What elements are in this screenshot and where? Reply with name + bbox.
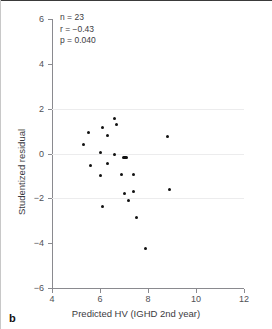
x-tick-label: 6 [88, 295, 112, 304]
data-point [144, 247, 147, 250]
data-point [132, 190, 135, 193]
data-point [99, 174, 102, 177]
x-tick-label: 10 [184, 295, 208, 304]
data-point [132, 173, 135, 176]
figure-left-border [0, 0, 1, 329]
x-tick-label: 8 [136, 295, 160, 304]
data-point [101, 205, 104, 208]
y-tick-label: 2 [22, 105, 44, 114]
data-point [106, 162, 109, 165]
data-point [101, 126, 104, 129]
data-point [120, 173, 123, 176]
statistics-annotation: n = 23 r = −0.43 p = 0.040 [60, 12, 96, 47]
data-point [168, 188, 171, 191]
data-point [166, 135, 169, 138]
plot-area [52, 19, 244, 288]
panel-label: b [9, 312, 16, 324]
gridline-y [52, 198, 244, 199]
data-point [82, 143, 85, 146]
x-tick-label: 4 [40, 295, 64, 304]
y-tick-label: 4 [22, 60, 44, 69]
x-tick [148, 289, 149, 293]
data-point [115, 123, 118, 126]
data-point [123, 192, 126, 195]
data-point [99, 151, 102, 154]
x-tick [196, 289, 197, 293]
data-point [87, 131, 90, 134]
x-tick [100, 289, 101, 293]
x-axis-title: Predicted HV (IGHD 2nd year) [0, 308, 272, 319]
y-tick-label: −6 [22, 284, 44, 293]
y-tick-label: 6 [22, 15, 44, 24]
y-axis-title: Studentized residual [16, 129, 27, 215]
y-tick-label: −4 [22, 239, 44, 248]
data-point [89, 164, 92, 167]
data-point [127, 199, 130, 202]
data-point [113, 153, 116, 156]
stat-r: r = −0.43 [60, 24, 96, 36]
data-point [135, 216, 138, 219]
stat-p: p = 0.040 [60, 35, 96, 47]
figure-panel-b: 6420−2−4−6 4681012 n = 23 r = −0.43 p = … [0, 0, 272, 329]
gridline-y [52, 154, 244, 155]
data-point [122, 156, 128, 159]
x-tick [244, 289, 245, 293]
x-tick [52, 289, 53, 293]
data-point [106, 134, 109, 137]
data-point [113, 117, 116, 120]
x-tick-label: 12 [232, 295, 256, 304]
gridline-y [52, 109, 244, 110]
stat-n: n = 23 [60, 12, 96, 24]
figure-top-border [0, 0, 272, 1]
